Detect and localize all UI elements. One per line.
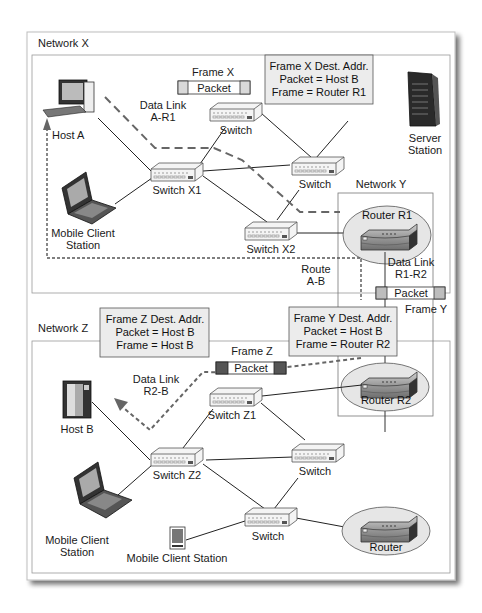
data-link-a-r1-label-2: A-R1 [150,111,175,123]
switch-mid-label: Switch [299,178,331,190]
frame-y-title: Frame Y [405,303,448,315]
frame-z-title: Frame Z [231,345,273,357]
switch-z1-icon [210,388,262,406]
switch-z-right-icon [292,444,344,462]
frame-y-dest-line3: Frame = Router R2 [296,338,390,350]
frame-z-dest-line3: Frame = Host B [116,339,193,351]
frame-y-dest-line2: Packet = Host B [303,325,382,337]
route-a-b-label-1: Route [301,263,330,275]
network-y-label: Network Y [356,178,407,190]
frame-x-title: Frame X [192,66,235,78]
server-station-icon [408,72,440,126]
switch-x1-label: Switch X1 [153,184,202,196]
server-label-2: Station [408,144,442,156]
network-diagram: Network X Network Z Network Y Host A Mob… [0,0,482,613]
switch-x1-icon [151,163,203,181]
switch-z2-label: Switch Z2 [153,469,201,481]
network-x-label: Network X [38,37,89,49]
switch-z-right-label: Switch [299,465,331,477]
data-link-r2-b-label-2: R2-B [143,385,168,397]
data-link-r1-r2-label-2: R1-R2 [395,268,427,280]
frame-z-dest-line2: Packet = Host B [115,326,194,338]
route-a-b-label-2: A-B [307,275,325,287]
server-label-1: Server [409,132,442,144]
frame-x-dest-line3: Frame = Router R1 [272,86,366,98]
router-r2-label: Router R2 [361,394,411,406]
mobile-client-x-label-2: Station [66,239,100,251]
frame-x-packet-label: Packet [197,82,231,94]
data-link-r1-r2-label-1: Data Link [388,256,435,268]
data-link-a-r1-label-1: Data Link [140,99,187,111]
frame-z-packet-label: Packet [234,362,268,374]
mobile-client-z-label-1: Mobile Client [45,534,109,546]
frame-y-packet-label: Packet [394,287,428,299]
router-r1-label: Router R1 [362,209,412,221]
host-b-computer-icon [63,381,91,418]
frame-y-dest-line1: Frame Y Dest. Addr. [294,312,393,324]
mobile-client-z-label-2: Station [60,546,94,558]
switch-top-label: Switch [220,124,252,136]
mobile-client-handheld-icon [170,527,185,549]
switch-z-bottom-label: Switch [252,530,284,542]
mobile-client-x-label-1: Mobile Client [51,227,115,239]
switch-z-bottom-icon [245,508,297,526]
switch-z2-icon [151,448,203,466]
switch-z1-label: Switch Z1 [208,409,256,421]
frame-z-dest-line1: Frame Z Dest. Addr. [106,313,204,325]
switch-x2-label: Switch X2 [247,243,296,255]
host-a-label: Host A [52,129,85,141]
router-z-label: Router [369,541,402,553]
switch-mid-icon [292,157,344,175]
host-b-label: Host B [60,423,93,435]
mobile-client-handheld-label: Mobile Client Station [127,552,228,564]
data-link-r2-b-label-1: Data Link [133,373,180,385]
frame-x-dest-line2: Packet = Host B [279,73,358,85]
switch-x2-icon [245,222,297,240]
frame-x-dest-line1: Frame X Dest. Addr. [269,60,368,72]
network-z-label: Network Z [38,322,88,334]
switch-top-icon [210,103,262,121]
